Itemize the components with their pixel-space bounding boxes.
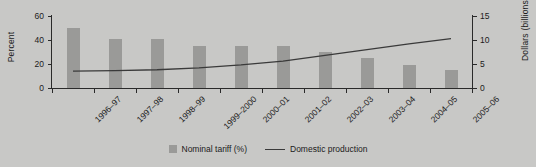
legend-label-domestic-production: Domestic production xyxy=(290,144,367,154)
x-axis-label: 2003–04 xyxy=(387,94,417,124)
x-axis-label: 2001–02 xyxy=(303,94,333,124)
line-series xyxy=(52,16,472,88)
chart-container: Percent Dollars (billions) 0204060 05101… xyxy=(0,0,536,167)
legend-item-domestic-production: Domestic production xyxy=(265,144,367,154)
x-tick-mark xyxy=(178,89,179,93)
x-tick-mark xyxy=(472,89,473,93)
right-axis-title: Dollars (billions) xyxy=(520,0,530,65)
left-axis-title: Percent xyxy=(6,16,16,78)
right-tick-mark xyxy=(473,88,477,89)
line-swatch-icon xyxy=(265,149,285,150)
x-tick-mark xyxy=(262,89,263,93)
x-axis-label: 2005–06 xyxy=(471,94,501,124)
x-axis-label: 1998–99 xyxy=(177,94,207,124)
x-axis-label: 2004–05 xyxy=(429,94,459,124)
legend-label-nominal-tariff: Nominal tariff (%) xyxy=(182,144,248,154)
x-tick-mark xyxy=(220,89,221,93)
chart-legend: Nominal tariff (%) Domestic production xyxy=(0,144,536,154)
right-tick-label: 10 xyxy=(480,35,500,45)
right-tick-label: 5 xyxy=(480,59,500,69)
left-tick-label: 40 xyxy=(20,35,44,45)
right-tick-label: 0 xyxy=(480,83,500,93)
x-tick-mark xyxy=(346,89,347,93)
right-tick-mark xyxy=(473,64,477,65)
right-axis-line xyxy=(472,15,473,89)
x-axis-label: 1996–97 xyxy=(93,94,123,124)
x-axis-label: 2000–01 xyxy=(261,94,291,124)
domestic-production-line xyxy=(52,16,472,88)
legend-item-nominal-tariff: Nominal tariff (%) xyxy=(169,144,248,154)
left-tick-label: 20 xyxy=(20,59,44,69)
left-tick-label: 60 xyxy=(20,11,44,21)
x-tick-mark xyxy=(304,89,305,93)
bar-swatch-icon xyxy=(169,145,177,153)
x-axis-label: 1997–98 xyxy=(135,94,165,124)
x-tick-mark xyxy=(388,89,389,93)
x-tick-mark xyxy=(52,89,53,93)
x-axis-label: 2002–03 xyxy=(345,94,375,124)
x-axis-label: 1999–2000 xyxy=(221,94,258,131)
x-tick-mark xyxy=(136,89,137,93)
left-tick-label: 0 xyxy=(20,83,44,93)
x-tick-mark xyxy=(430,89,431,93)
plot-area xyxy=(52,16,472,88)
x-tick-mark xyxy=(94,89,95,93)
right-tick-label: 15 xyxy=(480,11,500,21)
right-tick-mark xyxy=(473,40,477,41)
right-tick-mark xyxy=(473,16,477,17)
